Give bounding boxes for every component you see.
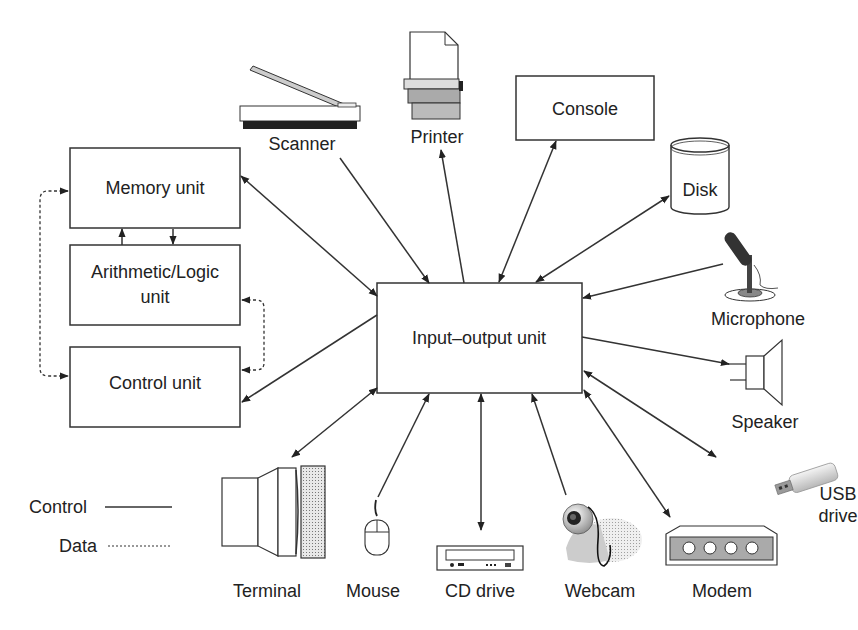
mouse-label: Mouse [346, 581, 400, 601]
modem-icon [666, 526, 777, 565]
terminal-label: Terminal [233, 581, 301, 601]
terminal-io-arrow [292, 388, 377, 457]
modem-label: Modem [692, 581, 752, 601]
disk-io-arrow [536, 196, 669, 282]
printer-label: Printer [410, 127, 463, 147]
mouse-to-io-arrow [378, 394, 429, 497]
disk-icon: Disk [671, 138, 729, 214]
memory-control-data-path [40, 191, 68, 376]
console-label: Console [552, 99, 618, 119]
usb-drive-label-line1: USB [819, 484, 856, 504]
alu-control-data-path [242, 300, 264, 370]
legend-data-label: Data [59, 536, 98, 556]
alu-unit: Arithmetic/Logic unit [70, 245, 240, 325]
cd-drive-icon [437, 546, 523, 570]
usb-io-arrow [584, 371, 716, 457]
microphone-to-io-arrow [583, 264, 723, 298]
speaker-label: Speaker [731, 412, 798, 432]
control-unit: Control unit [70, 347, 240, 427]
console-box: Console [516, 76, 654, 140]
cd-drive-label: CD drive [445, 581, 515, 601]
terminal-icon [222, 466, 325, 558]
alu-unit-label-line2: unit [140, 287, 169, 307]
speaker-icon [728, 340, 782, 405]
io-to-speaker-arrow [582, 337, 729, 364]
legend: Control Data [29, 497, 172, 556]
console-io-arrow [499, 141, 556, 282]
scanner-icon [240, 66, 360, 129]
legend-control-label: Control [29, 497, 87, 517]
memory-unit: Memory unit [70, 148, 240, 228]
memory-io-arrow [241, 176, 377, 296]
mouse-icon [365, 500, 389, 555]
io-unit-label: Input–output unit [412, 328, 546, 348]
usb-drive-label-line2: drive [818, 506, 857, 526]
alu-unit-label-line1: Arithmetic/Logic [91, 262, 219, 282]
microphone-label: Microphone [711, 309, 805, 329]
io-unit: Input–output unit [377, 283, 582, 393]
scanner-to-io-arrow [340, 158, 429, 283]
microphone-icon [722, 230, 778, 301]
webcam-icon [563, 504, 642, 566]
printer-icon [404, 32, 463, 119]
io-to-printer-arrow [441, 150, 464, 283]
webcam-to-io-arrow [532, 394, 566, 495]
control-unit-label: Control unit [109, 373, 201, 393]
scanner-label: Scanner [268, 134, 335, 154]
modem-io-arrow [584, 390, 670, 517]
computer-organization-diagram: Memory unit Arithmetic/Logic unit Contro… [0, 0, 858, 630]
memory-unit-label: Memory unit [105, 178, 204, 198]
webcam-label: Webcam [565, 581, 636, 601]
disk-label: Disk [683, 180, 719, 200]
io-to-control-arrow [242, 315, 377, 402]
